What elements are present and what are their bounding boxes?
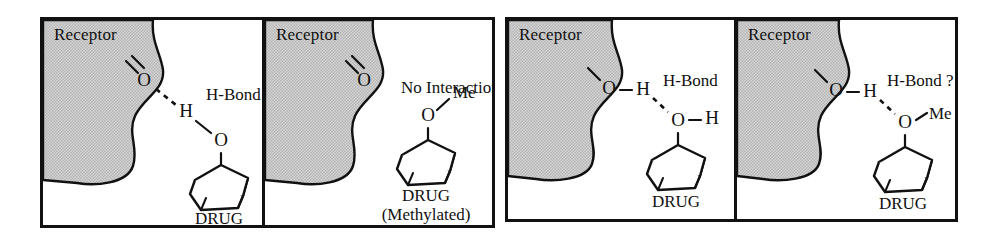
panel-no-interaction-methylated-drug: Receptor O O Me No Interaction DRUG [262,20,492,225]
atom-drug-o: O [898,111,912,132]
atom-receptor-o: O [137,69,151,90]
atom-receptor-o: O [602,77,616,98]
atom-receptor-h: H [636,78,650,99]
panel-h-bond-uncertain-methylated: Receptor O H O Me H-Bond [734,20,955,219]
atom-drug-o: O [671,109,685,130]
atom-receptor-h: H [863,80,877,101]
atom-drug-o: O [214,129,228,150]
interaction-annotation: No Interaction [401,78,492,97]
figure-canvas: Receptor O H O [0,0,995,245]
hydrogen-bond-dash [156,89,176,105]
drug-sublabel: (Methylated) [382,205,471,224]
chemistry-drawing: O O Me No Interaction DRUG (Methylated) [265,20,492,225]
interaction-annotation: H-Bond ? [887,71,954,90]
chemistry-drawing: O H O Me H-Bond ? DRUG [737,20,955,219]
panel-group-left: Receptor O H O [40,17,495,228]
atom-drug-h: H [705,107,719,128]
drug-label: DRUG [195,209,243,225]
interaction-annotation: H-Bond [663,71,718,90]
atom-receptor-o: O [829,79,843,100]
chemistry-drawing: O H O H H-Bond DRUG [508,20,734,219]
drug-label: DRUG [402,186,450,205]
panel-group-right: Receptor O H O H H-Bond [505,17,958,222]
chemistry-drawing: O H O H-Bond DRUG [43,20,262,225]
atom-receptor-o: O [357,69,371,90]
interaction-annotation: H-Bond [206,85,261,104]
hydrogen-bond-dash [653,98,668,112]
atom-drug-me: Me [929,104,952,123]
drug-label: DRUG [652,192,700,211]
panel-h-bond-hydroxyl-drug: Receptor O H O [43,20,262,225]
atom-drug-h: H [179,100,193,121]
panel-h-bond-receptor-donor: Receptor O H O H H-Bond [508,20,734,219]
hydrogen-bond-dash [880,100,895,114]
drug-label: DRUG [879,194,927,213]
atom-drug-o: O [421,104,435,125]
